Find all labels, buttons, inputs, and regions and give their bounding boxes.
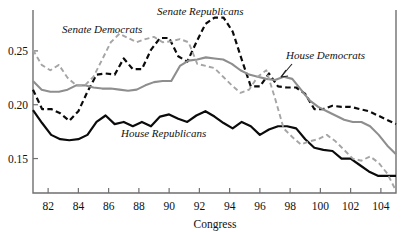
x-axis-tick-label: 104 [372,200,390,212]
x-axis-tick-label: 82 [42,200,54,212]
series-label-senate-republicans: Senate Republicans [157,5,243,17]
line-chart-svg: 0.150.200.25828486889092949698100102104 … [0,0,405,232]
series-line-house-republicans [33,110,396,176]
x-axis-tick-label: 90 [163,200,175,212]
y-axis-tick-label: 0.20 [8,99,28,111]
x-axis-title: Congress [194,218,237,231]
x-axis-tick-label: 102 [342,200,360,212]
x-axis-tick-label: 92 [194,200,206,212]
series-label-house-republicans: House Republicans [120,127,206,139]
y-axis-tick-label: 0.15 [8,153,28,165]
chart-series [33,18,396,191]
x-axis-tick-label: 94 [224,200,236,212]
x-axis-tick-label: 96 [254,200,266,212]
series-label-house-democrats: House Democrats [285,49,365,61]
y-axis-tick-label: 0.25 [8,45,28,57]
x-axis-tick-label: 86 [103,200,115,212]
series-label-senate-democrats: Senate Democrats [62,23,142,35]
chart-axes [33,10,396,193]
x-axis-tick-label: 98 [284,200,296,212]
x-axis-tick-label: 84 [73,200,85,212]
chart-annotations: Senate DemocratsSenate RepublicansHouse … [62,5,365,139]
chart-container: 0.150.200.25828486889092949698100102104 … [0,0,405,232]
x-axis-tick-label: 88 [133,200,145,212]
x-axis-tick-label: 100 [312,200,330,212]
axis-frame [33,10,396,193]
